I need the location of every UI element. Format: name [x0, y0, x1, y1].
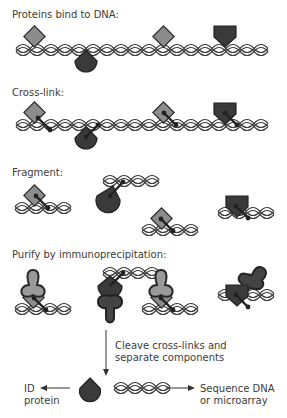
- dna-strand-step2: [16, 120, 268, 131]
- pentagon-protein-icon: [214, 26, 236, 47]
- left-arrow-icon: [40, 385, 70, 391]
- fragment-diamond: [15, 185, 71, 214]
- dna-strand-step1: [16, 45, 268, 56]
- diamond-protein-icon: [153, 26, 174, 47]
- antibody-pentagon-complex: [218, 267, 274, 309]
- separated-protein-icon: [79, 378, 100, 402]
- down-arrow-icon: [103, 330, 109, 376]
- crosslinked-teardrop-protein-icon: [75, 123, 100, 149]
- fragment-pentagon: [218, 196, 274, 220]
- fragment-diamond: [142, 208, 198, 236]
- diamond-protein-icon: [24, 26, 45, 47]
- right-arrow-icon: [166, 385, 195, 391]
- teardrop-protein-icon: [75, 50, 97, 72]
- antibody-diamond-complex: [15, 270, 71, 315]
- fragment-teardrop: [96, 176, 159, 213]
- chip-diagram: [0, 0, 287, 418]
- antibody-diamond-complex: [142, 270, 198, 315]
- separated-dna-icon: [114, 383, 170, 394]
